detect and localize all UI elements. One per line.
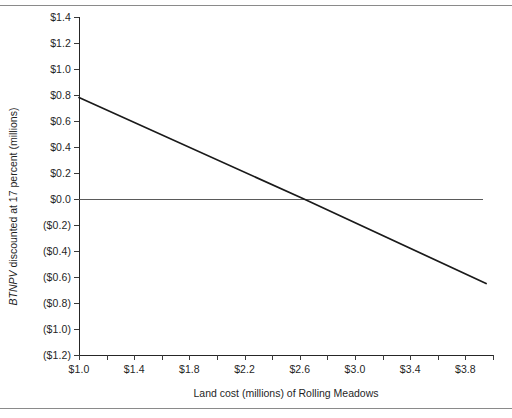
- data-line: [79, 98, 486, 284]
- x-axis-tick: [438, 355, 439, 360]
- y-axis-tick-label: ($1.0): [43, 323, 71, 335]
- y-axis-tick-label: $0.8: [50, 89, 71, 101]
- y-axis-title-italic-prefix: BTNPV: [7, 270, 19, 305]
- x-axis-tick: [300, 355, 301, 360]
- x-axis-line: [79, 355, 493, 356]
- y-axis-tick-label: ($0.8): [43, 297, 71, 309]
- x-axis-tick: [217, 355, 218, 360]
- x-axis-title: Land cost (millions) of Rolling Meadows: [79, 387, 493, 399]
- x-axis-tick: [410, 355, 411, 360]
- y-axis-tick-label: $1.0: [50, 63, 71, 75]
- x-axis-tick: [134, 355, 135, 360]
- x-axis-tick-label: $1.8: [179, 363, 200, 375]
- y-axis-tick-label: $1.4: [50, 11, 71, 23]
- x-axis-tick: [355, 355, 356, 360]
- x-axis-tick: [383, 355, 384, 360]
- y-axis-tick-label: $0.2: [50, 167, 71, 179]
- x-axis-tick-label: $1.0: [69, 363, 90, 375]
- x-axis-tick: [327, 355, 328, 360]
- x-axis-tick: [245, 355, 246, 360]
- y-axis-tick-label: $0.0: [50, 193, 71, 205]
- x-axis-tick-label: $3.8: [455, 363, 476, 375]
- x-axis-tick: [272, 355, 273, 360]
- data-series-layer: [79, 17, 493, 355]
- x-axis-tick-label: $2.6: [289, 363, 310, 375]
- x-axis-tick: [189, 355, 190, 360]
- chart-figure: BTNPV discounted at 17 percent (millions…: [0, 6, 512, 407]
- x-axis-tick-label: $3.4: [400, 363, 421, 375]
- x-axis-tick: [465, 355, 466, 360]
- plot-area: $1.4$1.2$1.0$0.8$0.6$0.4$0.2$0.0($0.2)($…: [79, 17, 493, 355]
- y-axis-title-rest: discounted at 17 percent (millions): [7, 108, 19, 271]
- y-axis-title: BTNPV discounted at 17 percent (millions…: [0, 6, 26, 407]
- y-axis-tick-label: ($1.2): [43, 349, 71, 361]
- page-rule-bottom: [0, 408, 512, 409]
- x-axis-tick-label: $2.2: [234, 363, 255, 375]
- x-axis-tick: [493, 355, 494, 360]
- y-axis-tick-label: ($0.4): [43, 245, 71, 257]
- y-axis-tick-label: $0.4: [50, 141, 71, 153]
- x-axis-tick: [162, 355, 163, 360]
- x-axis-tick-label: $1.4: [124, 363, 145, 375]
- x-axis-tick: [79, 355, 80, 360]
- y-axis-tick-label: ($0.2): [43, 219, 71, 231]
- x-axis-tick: [107, 355, 108, 360]
- y-axis-tick-label: $1.2: [50, 37, 71, 49]
- y-axis-tick-label: $0.6: [50, 115, 71, 127]
- x-axis-tick-label: $3.0: [345, 363, 366, 375]
- y-axis-tick-label: ($0.6): [43, 271, 71, 283]
